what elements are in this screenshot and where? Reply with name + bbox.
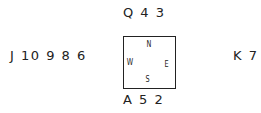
compass-east-label: E [165, 59, 169, 69]
east-hand: K 7 [233, 48, 258, 63]
compass-south-label: S [146, 74, 150, 84]
compass-west-label: W [127, 57, 133, 67]
west-hand: J 10 9 8 6 [10, 48, 87, 63]
north-hand: Q 4 3 [123, 5, 166, 20]
south-hand: A 5 2 [123, 92, 164, 107]
compass-box: N W E S [123, 36, 176, 89]
compass-north-label: N [147, 39, 152, 49]
